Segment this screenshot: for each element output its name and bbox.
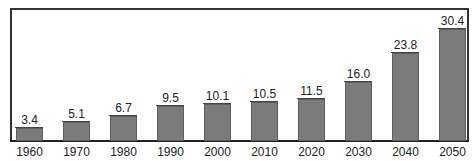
value-underline (297, 98, 325, 99)
value-label: 9.5 (151, 91, 191, 105)
value-label: 11.5 (292, 84, 332, 98)
bar-2040 (392, 53, 419, 141)
bar-2010 (251, 102, 278, 141)
value-label: 3.4 (10, 113, 50, 127)
x-tick-label: 2010 (243, 145, 287, 159)
bar-2050 (439, 29, 466, 141)
value-underline (344, 81, 372, 82)
value-label: 5.1 (57, 107, 97, 121)
x-tick-label: 1960 (8, 145, 52, 159)
x-tick-label: 2000 (196, 145, 240, 159)
value-label: 6.7 (104, 101, 144, 115)
x-tick-label: 2050 (431, 145, 475, 159)
value-label: 16.0 (339, 67, 379, 81)
value-underline (15, 127, 43, 128)
bar-2020 (298, 99, 325, 141)
value-label: 10.1 (198, 89, 238, 103)
value-label: 10.5 (245, 87, 285, 101)
x-tick-label: 1970 (55, 145, 99, 159)
x-tick-label: 1980 (102, 145, 146, 159)
bar-2000 (204, 104, 231, 141)
value-underline (203, 103, 231, 104)
value-label: 23.8 (386, 38, 426, 52)
value-underline (391, 52, 419, 53)
value-label: 30.4 (433, 14, 473, 28)
x-tick-label: 1990 (149, 145, 193, 159)
bar-1970 (63, 122, 90, 141)
x-tick-label: 2040 (384, 145, 428, 159)
x-tick-label: 2020 (290, 145, 334, 159)
bar-1980 (110, 116, 137, 141)
value-underline (109, 115, 137, 116)
value-underline (62, 121, 90, 122)
value-underline (438, 28, 466, 29)
bar-2030 (345, 82, 372, 141)
x-tick-label: 2030 (337, 145, 381, 159)
bar-1960 (16, 128, 43, 141)
value-underline (156, 105, 184, 106)
bar-1990 (157, 106, 184, 141)
value-underline (250, 101, 278, 102)
